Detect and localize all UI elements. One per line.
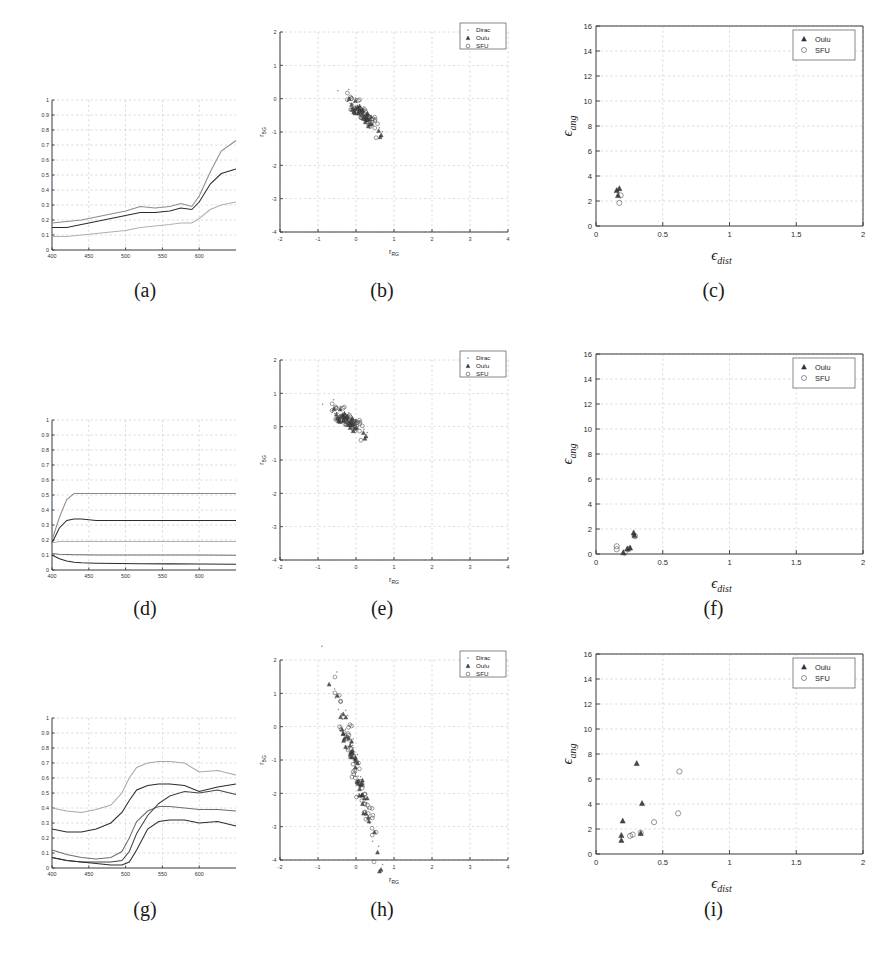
svg-text:-4: -4 <box>272 857 277 863</box>
svg-text:0.9: 0.9 <box>42 112 50 118</box>
gridlines <box>52 420 236 570</box>
scatter-points <box>614 186 623 206</box>
svg-text:0.2: 0.2 <box>42 537 50 543</box>
svg-text:0.6: 0.6 <box>42 157 50 163</box>
svg-text:1: 1 <box>274 691 277 697</box>
svg-text:500: 500 <box>121 871 130 877</box>
svg-text:1: 1 <box>274 391 277 397</box>
svg-text:400: 400 <box>48 253 57 259</box>
caption-d: (d) <box>0 597 290 620</box>
svg-text:1.5: 1.5 <box>791 558 802 567</box>
svg-text:rBG: rBG <box>258 127 267 137</box>
svg-text:-2: -2 <box>272 163 277 169</box>
svg-text:0: 0 <box>588 850 592 859</box>
svg-text:rBG: rBG <box>258 455 267 465</box>
svg-text:Dirac: Dirac <box>476 26 490 33</box>
spectral-chart-a: 00.10.20.30.40.50.60.70.80.9140045050055… <box>22 86 242 266</box>
svg-text:2: 2 <box>588 197 592 206</box>
svg-text:SFU: SFU <box>815 374 830 383</box>
svg-text:-1: -1 <box>272 129 277 135</box>
curves <box>52 494 236 565</box>
subplot-d: 00.10.20.30.40.50.60.70.80.9140045050055… <box>22 406 242 586</box>
svg-text:8: 8 <box>588 450 592 459</box>
svg-text:0.8: 0.8 <box>42 447 50 453</box>
subplot-b: -4-3-2-1012-2-101234rRGrBGDiracOuluSFU <box>252 10 512 268</box>
svg-text:-2: -2 <box>272 791 277 797</box>
svg-text:4: 4 <box>507 564 510 570</box>
svg-text:4: 4 <box>588 800 592 809</box>
svg-text:0.3: 0.3 <box>42 522 50 528</box>
svg-text:0: 0 <box>594 858 598 867</box>
svg-text:-2: -2 <box>272 491 277 497</box>
svg-text:3: 3 <box>469 564 472 570</box>
svg-text:0: 0 <box>274 424 277 430</box>
curve-s4 <box>52 554 236 556</box>
svg-text:0.2: 0.2 <box>42 217 50 223</box>
svg-text:2: 2 <box>274 657 277 663</box>
axis-names: ϵdistϵang <box>559 443 732 594</box>
svg-text:ϵang: ϵang <box>559 115 578 136</box>
svg-text:6: 6 <box>588 775 592 784</box>
svg-text:450: 450 <box>84 253 93 259</box>
svg-text:3: 3 <box>469 236 472 242</box>
scatter-points <box>614 530 637 555</box>
axes: 00.10.20.30.40.50.60.70.80.9140045050055… <box>42 715 237 877</box>
svg-text:0.7: 0.7 <box>42 142 50 148</box>
axis-names: ϵdistϵang <box>559 115 732 266</box>
svg-text:0: 0 <box>355 564 358 570</box>
curves <box>52 762 236 866</box>
svg-text:14: 14 <box>584 47 592 56</box>
svg-text:2: 2 <box>588 525 592 534</box>
svg-text:-3: -3 <box>272 196 277 202</box>
svg-text:ϵdist: ϵdist <box>711 247 732 266</box>
svg-text:1: 1 <box>393 564 396 570</box>
svg-text:Oulu: Oulu <box>815 35 831 44</box>
caption-a: (a) <box>0 279 290 302</box>
curve-s3 <box>52 542 236 544</box>
svg-text:0.5: 0.5 <box>657 230 668 239</box>
svg-text:Oulu: Oulu <box>815 363 831 372</box>
svg-text:0.6: 0.6 <box>42 477 50 483</box>
svg-text:4: 4 <box>507 236 510 242</box>
legend: DiracOuluSFU <box>460 651 506 677</box>
svg-text:4: 4 <box>507 864 510 870</box>
svg-text:8: 8 <box>588 750 592 759</box>
svg-text:8: 8 <box>588 122 592 131</box>
legend: DiracOuluSFU <box>460 23 506 49</box>
svg-text:0.5: 0.5 <box>42 172 50 178</box>
svg-text:-3: -3 <box>272 524 277 530</box>
svg-text:-1: -1 <box>316 864 321 870</box>
svg-text:ϵang: ϵang <box>559 443 578 464</box>
axes: -4-3-2-1012-2-101234 <box>272 357 510 570</box>
curve-g3 <box>52 807 236 860</box>
svg-text:1: 1 <box>727 558 731 567</box>
svg-text:0: 0 <box>594 230 598 239</box>
svg-text:0: 0 <box>274 724 277 730</box>
svg-text:2: 2 <box>431 864 434 870</box>
legend: OuluSFU <box>793 30 855 60</box>
svg-text:16: 16 <box>584 350 592 359</box>
svg-text:Dirac: Dirac <box>476 354 490 361</box>
caption-c: (c) <box>556 279 871 302</box>
svg-text:0.1: 0.1 <box>42 850 50 856</box>
svg-text:0.5: 0.5 <box>657 858 668 867</box>
curve-s1 <box>52 494 236 541</box>
svg-text:0: 0 <box>594 558 598 567</box>
svg-text:ϵdist: ϵdist <box>711 875 732 894</box>
svg-text:2: 2 <box>861 558 865 567</box>
svg-text:rBG: rBG <box>258 755 267 765</box>
svg-text:2: 2 <box>861 858 865 867</box>
spectral-chart-g: 00.10.20.30.40.50.60.70.80.9140045050055… <box>22 704 242 884</box>
axes: -4-3-2-1012-2-101234 <box>272 29 510 242</box>
svg-text:SFU: SFU <box>815 46 830 55</box>
curve-g4 <box>52 790 236 862</box>
caption-h: (h) <box>252 898 512 921</box>
svg-text:550: 550 <box>158 871 167 877</box>
chromaticity-chart-b: -4-3-2-1012-2-101234rRGrBGDiracOuluSFU <box>252 10 512 268</box>
svg-text:rRG: rRG <box>389 576 399 585</box>
svg-text:SFU: SFU <box>476 42 488 49</box>
subplot-c: 024681012141600.511.52ϵdistϵangOuluSFU <box>556 10 871 272</box>
svg-text:0.1: 0.1 <box>42 232 50 238</box>
svg-text:400: 400 <box>48 573 57 579</box>
svg-text:1: 1 <box>46 715 49 721</box>
